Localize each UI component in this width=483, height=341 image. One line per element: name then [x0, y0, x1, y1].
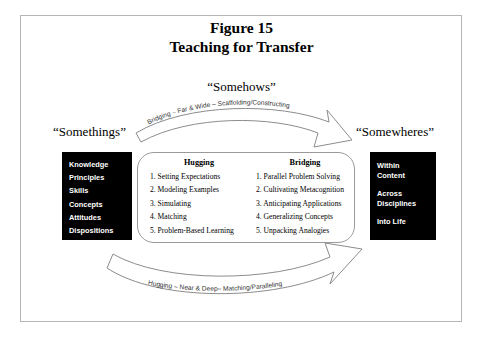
- list-item-line: Disciplines: [377, 199, 436, 209]
- bridging-heading: Bridging: [256, 158, 354, 167]
- page-title: Figure 15 Teaching for Transfer: [0, 18, 483, 56]
- somehows-box: Hugging 1. Setting Expectations 2. Model…: [137, 152, 355, 243]
- list-item: Across Disciplines: [377, 189, 436, 208]
- list-item: 2. Modeling Examples: [150, 183, 248, 196]
- list-item: 3. Anticipating Applications: [256, 197, 354, 210]
- list-item-line: Across: [377, 189, 436, 199]
- list-item: Attitudes: [69, 211, 132, 224]
- list-item: 3. Simulating: [150, 197, 248, 210]
- hugging-heading: Hugging: [150, 158, 248, 167]
- list-item: Dispositions: [69, 224, 132, 237]
- list-item: 5. Unpacking Analogies: [256, 224, 354, 237]
- list-item: Knowledge: [69, 158, 132, 171]
- list-item-line: Into Life: [377, 217, 436, 227]
- list-item: 4. Generalizing Concepts: [256, 210, 354, 223]
- somewheres-box: Within Content Across Disciplines Into L…: [370, 152, 436, 240]
- list-item-line: Content: [377, 171, 436, 181]
- list-item: 4. Matching: [150, 210, 248, 223]
- list-item: 5. Problem-Based Learning: [150, 224, 248, 237]
- list-item: Principles: [69, 171, 132, 184]
- label-somewheres: “Somewheres”: [356, 124, 434, 140]
- list-item: 1. Setting Expectations: [150, 170, 248, 183]
- list-item: 2. Cultivating Metacognition: [256, 183, 354, 196]
- title-line-2: Teaching for Transfer: [0, 37, 483, 56]
- bridging-list: 1. Parallel Problem Solving 2. Cultivati…: [256, 170, 354, 237]
- list-item: Concepts: [69, 198, 132, 211]
- hugging-column: Hugging 1. Setting Expectations 2. Model…: [138, 153, 248, 242]
- label-somehows: “Somehows”: [0, 79, 483, 95]
- bridging-column: Bridging 1. Parallel Problem Solving 2. …: [248, 153, 354, 242]
- title-line-1: Figure 15: [210, 19, 273, 36]
- list-item: Within Content: [377, 161, 436, 180]
- list-item-line: Within: [377, 161, 436, 171]
- list-item: Skills: [69, 184, 132, 197]
- hugging-list: 1. Setting Expectations 2. Modeling Exam…: [150, 170, 248, 237]
- list-item: 1. Parallel Problem Solving: [256, 170, 354, 183]
- list-item: Into Life: [377, 217, 436, 227]
- label-somethings: “Somethings”: [53, 124, 126, 140]
- somethings-box: Knowledge Principles Skills Concepts Att…: [62, 152, 132, 240]
